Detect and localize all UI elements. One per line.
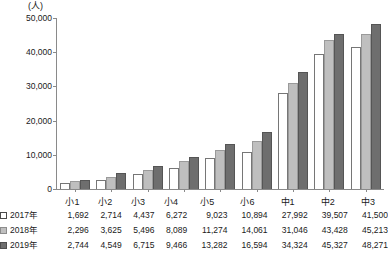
bar xyxy=(225,144,235,189)
table-cell: 48,271 xyxy=(348,237,388,252)
bar xyxy=(242,152,252,189)
bar xyxy=(371,24,381,189)
table-cell: 45,213 xyxy=(348,222,388,237)
table-cell: 10,894 xyxy=(227,207,267,222)
bar xyxy=(288,83,298,189)
legend-label: 2018年 xyxy=(10,225,38,235)
bar xyxy=(361,34,371,189)
bar xyxy=(116,173,126,189)
table-cell: 5,496 xyxy=(122,222,155,237)
bar xyxy=(169,168,179,189)
x-axis-tick-mark xyxy=(257,189,258,192)
table-row: 2018年2,2963,6255,4968,08911,27414,06131,… xyxy=(0,222,388,237)
table-cell: 14,061 xyxy=(227,222,267,237)
y-axis-tick-label: 40,000 xyxy=(0,48,52,57)
bar-chart-with-data-table: (人) 010,00020,00030,00040,00050,000 小1小2… xyxy=(0,0,388,262)
table-column-header: 小2 xyxy=(89,193,122,207)
table-column-header: 中3 xyxy=(348,193,388,207)
x-axis-tick-mark xyxy=(366,189,367,192)
bar xyxy=(70,181,80,189)
legend-item: 2019年 xyxy=(0,237,56,252)
table-column-header: 小3 xyxy=(122,193,155,207)
bar xyxy=(314,54,324,189)
x-axis-tick-mark xyxy=(293,189,294,192)
table-header-row: 小1小2小3小4小5小6中1中2中3 xyxy=(0,193,388,207)
bar xyxy=(80,180,90,189)
bar xyxy=(262,132,272,189)
table-cell: 45,327 xyxy=(308,237,348,252)
table-cell: 9,466 xyxy=(154,237,187,252)
table-cell: 6,272 xyxy=(154,207,187,222)
table-row: 2017年1,6922,7144,4376,2729,02310,89427,9… xyxy=(0,207,388,222)
table-cell: 9,023 xyxy=(187,207,227,222)
bar xyxy=(189,157,199,189)
table-cell: 13,282 xyxy=(187,237,227,252)
bar xyxy=(153,166,163,189)
table-cell: 43,428 xyxy=(308,222,348,237)
bar-group xyxy=(311,18,347,189)
table-cell: 4,549 xyxy=(89,237,122,252)
table-row: 2019年2,7444,5496,7159,46613,28216,59434,… xyxy=(0,237,388,252)
table-cell: 11,274 xyxy=(187,222,227,237)
table-column-header: 中2 xyxy=(308,193,348,207)
y-axis-unit-label: (人) xyxy=(28,1,43,12)
x-axis-tick-mark xyxy=(329,189,330,192)
table-column-header: 小5 xyxy=(187,193,227,207)
bar xyxy=(179,161,189,189)
bar xyxy=(215,150,225,189)
table-cell: 2,714 xyxy=(89,207,122,222)
table-cell: 31,046 xyxy=(268,222,308,237)
table-cell: 8,089 xyxy=(154,222,187,237)
table-cell: 1,692 xyxy=(56,207,89,222)
legend-swatch-icon xyxy=(0,212,7,219)
y-axis-tick-label: 20,000 xyxy=(0,117,52,126)
x-axis-tick-mark xyxy=(220,189,221,192)
x-axis-tick-mark xyxy=(184,189,185,192)
bar-group xyxy=(93,18,129,189)
x-axis-tick-mark xyxy=(148,189,149,192)
bar xyxy=(278,93,288,189)
data-table: 小1小2小3小4小5小6中1中2中3 2017年1,6922,7144,4376… xyxy=(0,193,388,252)
bar xyxy=(60,183,70,189)
table-cell: 34,324 xyxy=(268,237,308,252)
bar-group xyxy=(57,18,93,189)
bar xyxy=(324,40,334,189)
y-axis-tick-label: 50,000 xyxy=(0,14,52,23)
table-cell: 2,744 xyxy=(56,237,89,252)
table-cell: 6,715 xyxy=(122,237,155,252)
bar-group xyxy=(239,18,275,189)
table-cell: 2,296 xyxy=(56,222,89,237)
y-axis-tick-label: 30,000 xyxy=(0,82,52,91)
bar xyxy=(252,141,262,189)
legend-item: 2018年 xyxy=(0,222,56,237)
table-cell: 3,625 xyxy=(89,222,122,237)
bar-groups xyxy=(57,18,384,189)
bar-group xyxy=(202,18,238,189)
bar xyxy=(143,170,153,189)
table-cell: 39,507 xyxy=(308,207,348,222)
legend-swatch-icon xyxy=(0,227,7,234)
y-axis-tick-mark xyxy=(53,189,57,190)
legend-swatch-icon xyxy=(0,242,7,249)
table-cell: 41,500 xyxy=(348,207,388,222)
bar xyxy=(205,158,215,189)
bar-group xyxy=(166,18,202,189)
table-column-header: 小4 xyxy=(154,193,187,207)
bar xyxy=(334,34,344,189)
x-axis-tick-mark xyxy=(111,189,112,192)
table-column-header: 小6 xyxy=(227,193,267,207)
bar xyxy=(298,72,308,189)
bar xyxy=(133,174,143,189)
table-body: 2017年1,6922,7144,4376,2729,02310,89427,9… xyxy=(0,207,388,252)
bar-group xyxy=(348,18,384,189)
x-axis-tick-mark xyxy=(75,189,76,192)
bar-group xyxy=(130,18,166,189)
bar xyxy=(96,180,106,189)
y-axis-tick-label: 10,000 xyxy=(0,151,52,160)
table-cell: 4,437 xyxy=(122,207,155,222)
legend-label: 2017年 xyxy=(10,210,38,220)
bar xyxy=(106,177,116,189)
table-corner-cell xyxy=(0,193,56,207)
table-cell: 16,594 xyxy=(227,237,267,252)
table-column-header: 小1 xyxy=(56,193,89,207)
